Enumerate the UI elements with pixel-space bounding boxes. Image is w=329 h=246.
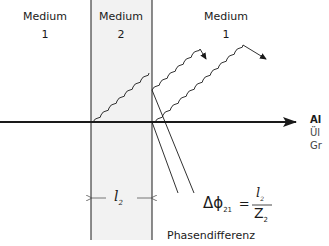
medium-2-label: Medium 2 (91, 10, 151, 42)
formula-equals: = (239, 196, 250, 211)
thickness-subscript: 2 (118, 199, 122, 207)
medium-name: Medium (91, 10, 151, 24)
thickness-label: l2 (114, 189, 123, 210)
medium-number: 1 (196, 28, 256, 42)
denominator-subscript: 2 (264, 216, 268, 224)
medium-number: 1 (15, 28, 75, 42)
formula-lhs-subscript: 21 (223, 206, 232, 214)
numerator-subscript: 2 (260, 195, 264, 202)
medium-name: Medium (196, 10, 256, 24)
phase-difference-formula: Δϕ21 = (203, 195, 250, 218)
medium-1-right-label: Medium 1 (196, 10, 256, 42)
denominator-symbol: Z (254, 205, 264, 221)
right-text-line-1: Al (310, 113, 322, 126)
medium-number: 2 (91, 28, 151, 42)
right-text-line-3: Gr (310, 139, 322, 152)
formula-numerator: l2 (256, 186, 264, 206)
formula-lhs: Δϕ (203, 194, 223, 212)
phase-difference-caption: Phasendifferenz (167, 229, 255, 243)
right-text-line-2: Ül (310, 126, 322, 139)
wave-2-transmitted (155, 45, 266, 122)
medium-1-left-label: Medium 1 (15, 10, 75, 42)
right-edge-text: Al Ül Gr (310, 113, 322, 152)
diagram-canvas: Medium 1 Medium 2 Medium 1 l2 Δϕ21 = l2 … (0, 0, 329, 246)
phase-line-2 (152, 122, 178, 193)
formula-denominator: Z2 (254, 206, 268, 228)
medium-name: Medium (15, 10, 75, 24)
